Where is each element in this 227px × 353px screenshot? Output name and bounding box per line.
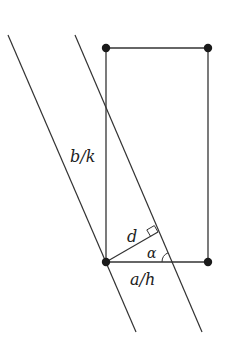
corner-dot-bottom-right xyxy=(204,258,212,266)
label-b-over-k: b/k xyxy=(70,147,95,166)
corner-dot-top-right xyxy=(204,44,212,52)
corner-dot-bottom-left xyxy=(102,258,110,266)
angle-alpha-arc xyxy=(162,253,168,262)
corner-dot-top-left xyxy=(102,44,110,52)
label-alpha: α xyxy=(147,245,157,261)
parallel-line-1 xyxy=(8,35,136,332)
label-d: d xyxy=(127,227,137,246)
label-a-over-h: a/h xyxy=(130,270,155,289)
geometry-diagram: b/k d α a/h xyxy=(0,0,227,353)
